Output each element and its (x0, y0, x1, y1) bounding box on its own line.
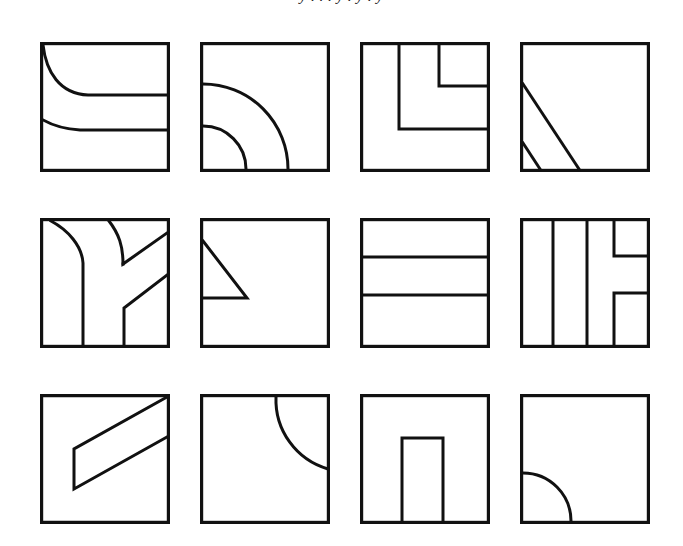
figure-cell-11 (360, 394, 490, 524)
figure-cell-7 (360, 218, 490, 348)
figure-cell-3 (360, 42, 490, 172)
figure-5-branching-curves-and-chevrons (40, 218, 170, 348)
figure-cell-1 (40, 42, 170, 172)
page-root: y . . . y . y . y (0, 0, 683, 546)
figure-cell-10 (200, 394, 330, 524)
figure-3-nested-L-corners (360, 42, 490, 172)
figure-2-concentric-quarter-arcs-bottom-left (200, 42, 330, 172)
figure-cell-4 (520, 42, 650, 172)
figure-cell-9 (40, 394, 170, 524)
figure-cell-12 (520, 394, 650, 524)
figure-cell-2 (200, 42, 330, 172)
figure-7-three-horizontal-bands (360, 218, 490, 348)
figure-4-parallel-diagonals-lower-left (520, 42, 650, 172)
figure-10-quarter-arc-top-right (200, 394, 330, 524)
figure-cell-8 (520, 218, 650, 348)
figure-1-two-decaying-curves (40, 42, 170, 172)
figure-cell-6 (200, 218, 330, 348)
figure-6-right-triangle-upper-left (200, 218, 330, 348)
figure-12-quarter-arc-bottom-left (520, 394, 650, 524)
figure-cell-5 (40, 218, 170, 348)
figure-grid (0, 0, 683, 546)
figure-8-vertical-bars-with-bracket (520, 218, 650, 348)
figure-11-inverted-u-rectangle (360, 394, 490, 524)
figure-9-diagonal-band-parallelogram (40, 394, 170, 524)
